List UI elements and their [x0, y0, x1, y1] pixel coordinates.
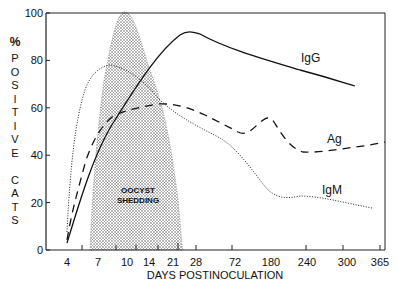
y-tick-labels: 0 20 40 60 80 100 — [25, 7, 43, 256]
y-axis-title-letter: A — [8, 187, 22, 201]
y-axis-title-letter — [8, 160, 22, 174]
svg-text:28: 28 — [190, 256, 202, 268]
chart: 0 20 40 60 80 100 4 7 10 14 21 28 72 180… — [0, 0, 399, 283]
svg-text:240: 240 — [298, 256, 316, 268]
label-oocyst: OOCYST — [121, 186, 155, 195]
y-axis-title-letter: T — [8, 201, 22, 215]
svg-text:72: 72 — [229, 256, 241, 268]
y-axis-title-letter: I — [8, 120, 22, 134]
y-axis-title-letter: O — [8, 66, 22, 80]
y-axis-title-letter: C — [8, 174, 22, 188]
y-axis-title: POSITIVE CATS — [8, 52, 22, 228]
svg-text:60: 60 — [31, 102, 43, 114]
label-ag: Ag — [327, 132, 342, 146]
svg-text:365: 365 — [371, 256, 389, 268]
oocyst-shedding-region — [90, 12, 183, 250]
y-axis-title-letter: S — [8, 79, 22, 93]
svg-text:10: 10 — [121, 256, 133, 268]
x-tick-labels: 4 7 10 14 21 28 72 180 240 300 365 — [64, 256, 389, 268]
svg-text:21: 21 — [167, 256, 179, 268]
svg-text:40: 40 — [31, 149, 43, 161]
svg-text:0: 0 — [37, 244, 43, 256]
y-axis-title-letter: V — [8, 133, 22, 147]
label-igg: IgG — [301, 51, 320, 65]
svg-text:100: 100 — [25, 7, 43, 19]
label-igm: IgM — [322, 183, 342, 197]
svg-text:7: 7 — [95, 256, 101, 268]
label-shedding: SHEDDING — [117, 196, 159, 205]
svg-text:300: 300 — [338, 256, 356, 268]
y-axis-title-letter: T — [8, 106, 22, 120]
y-axis-title-letter: P — [8, 52, 22, 66]
svg-text:4: 4 — [64, 256, 70, 268]
y-axis-percent: % — [10, 35, 21, 49]
svg-text:14: 14 — [143, 256, 155, 268]
x-axis-title: DAYS POSTINOCULATION — [147, 269, 284, 281]
y-axis-title-letter: I — [8, 93, 22, 107]
svg-text:180: 180 — [262, 256, 280, 268]
y-axis-title-letter: E — [8, 147, 22, 161]
svg-text:80: 80 — [31, 54, 43, 66]
svg-text:20: 20 — [31, 197, 43, 209]
y-axis-title-letter: S — [8, 214, 22, 228]
